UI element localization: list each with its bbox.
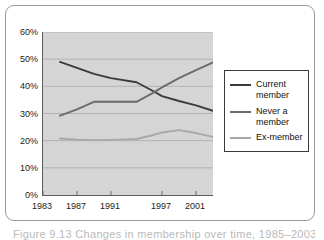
x-axis-tick-label: 2001 xyxy=(185,201,205,211)
legend-item: Ex-member xyxy=(230,132,303,143)
x-axis-tick-labels: 19831987199119972001 xyxy=(6,197,316,213)
y-axis-tick-label: 20% xyxy=(20,136,38,146)
x-axis-tick-label: 1987 xyxy=(66,201,86,211)
plot-svg xyxy=(43,32,213,195)
figure-frame: 0%10%20%30%40%50%60% 1983198719911997200… xyxy=(5,5,315,221)
y-axis-tick-labels: 0%10%20%30%40%50%60% xyxy=(8,6,38,222)
x-axis-tick-label: 1983 xyxy=(32,201,52,211)
x-axis-tick-label: 1991 xyxy=(100,201,120,211)
legend-line-swatch xyxy=(230,111,251,113)
plot-area xyxy=(42,32,213,196)
figure-caption-strip: Figure 9.13 Changes in membership over t… xyxy=(5,230,315,240)
legend-label: Ex-member xyxy=(256,132,303,143)
legend-label: Never a member xyxy=(256,106,289,127)
legend-item: Current member xyxy=(230,79,289,100)
legend-label: Current member xyxy=(256,79,289,100)
legend-line-swatch xyxy=(230,84,251,86)
x-axis-tick-label: 1997 xyxy=(151,201,171,211)
y-axis-tick-label: 50% xyxy=(20,54,38,64)
line-chart: 0%10%20%30%40%50%60% 1983198719911997200… xyxy=(6,6,316,222)
series-line-2 xyxy=(60,130,213,140)
y-axis-tick-label: 10% xyxy=(20,163,38,173)
legend-item: Never a member xyxy=(230,106,289,127)
figure-caption: Figure 9.13 Changes in membership over t… xyxy=(13,230,315,240)
y-axis-tick-label: 40% xyxy=(20,81,38,91)
chart-legend: Current memberNever a memberEx-member xyxy=(224,70,309,152)
y-axis-tick-label: 30% xyxy=(20,109,38,119)
legend-line-swatch xyxy=(230,137,251,139)
y-axis-tick-label: 60% xyxy=(20,27,38,37)
